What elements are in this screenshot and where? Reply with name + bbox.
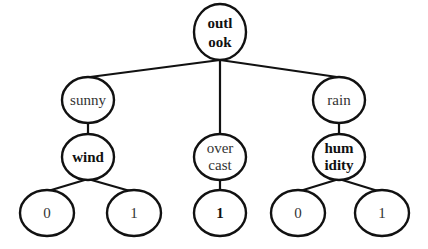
node-outlook-label-1: outl [207, 15, 232, 31]
node-wind-leaf-1-label: 1 [130, 205, 138, 221]
node-humidity-leaf-1-label: 1 [378, 205, 386, 221]
node-humidity: hum idity [313, 134, 365, 180]
node-humidity-leaf-0-label: 0 [294, 205, 302, 221]
node-wind-leaf-1: 1 [107, 190, 161, 236]
edge-outlook-sunny [90, 60, 220, 77]
node-overcast: over cast [194, 134, 246, 180]
node-wind-label: wind [72, 149, 104, 165]
node-overcast-label-1: over [207, 140, 234, 156]
decision-tree-diagram: outl ook sunny over cast rain wind 1 hum… [0, 0, 428, 249]
node-rain-label: rain [327, 92, 351, 108]
node-rain: rain [313, 77, 365, 123]
node-wind-leaf-0: 0 [20, 190, 74, 236]
edge-humidity-leaf0 [300, 179, 339, 191]
edge-outlook-rain [220, 60, 337, 77]
node-wind-leaf-0-label: 0 [43, 205, 51, 221]
node-overcast-leaf-label: 1 [216, 205, 224, 221]
node-wind: wind [62, 134, 114, 180]
node-outlook-label-2: ook [208, 34, 232, 50]
edge-wind-leaf1 [88, 179, 130, 191]
node-humidity-leaf-0: 0 [271, 190, 325, 236]
node-humidity-leaf-1: 1 [355, 190, 409, 236]
node-humidity-label-2: idity [324, 157, 354, 173]
node-overcast-leaf: 1 [194, 190, 246, 236]
node-humidity-label-1: hum [324, 140, 354, 156]
edge-humidity-leaf1 [339, 179, 378, 191]
node-sunny-label: sunny [70, 92, 106, 108]
node-overcast-label-2: cast [208, 157, 232, 173]
node-outlook: outl ook [194, 4, 246, 60]
edge-wind-leaf0 [48, 179, 88, 191]
node-sunny: sunny [62, 77, 114, 123]
